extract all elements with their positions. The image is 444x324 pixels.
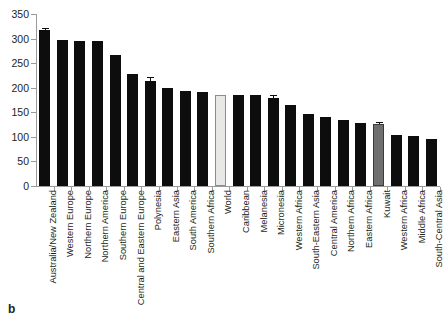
x-axis-category-label-holder: Central and Eastern Europe xyxy=(137,190,146,305)
bar xyxy=(127,74,138,186)
x-axis-category-label-holder: Western Africa xyxy=(295,190,304,250)
bar xyxy=(233,95,244,186)
x-axis-category-label: South-Eastern Asia xyxy=(312,190,321,270)
x-axis-category-label: Melanesia xyxy=(260,190,269,232)
bar xyxy=(92,41,103,186)
bar xyxy=(268,98,279,186)
bar xyxy=(215,95,226,186)
x-axis-category-labels: Australia/New ZealandWestern EuropeNorth… xyxy=(0,190,444,300)
x-axis-category-label-holder: Kuwait xyxy=(383,190,392,218)
x-axis-category-label-holder: World xyxy=(224,190,233,214)
x-axis-category-label: Southern Africa xyxy=(207,190,216,254)
x-axis-category-label-holder: Central America xyxy=(330,190,339,256)
x-axis-category-label-holder: Polynesia xyxy=(154,190,163,230)
bar xyxy=(426,139,437,186)
x-axis-category-label: South-Central Asia xyxy=(435,190,444,268)
x-axis-category-label: Eastern Asia xyxy=(172,190,181,242)
x-axis-category-label-holder: Australia/New Zealand xyxy=(49,190,58,284)
x-axis-category-label-holder: Middle Africa xyxy=(418,190,427,243)
chart-plot-area: 050100150200250300350 Australia/New Zeal… xyxy=(0,0,444,300)
x-axis-category-label: Caribbean xyxy=(242,190,251,233)
bar-series xyxy=(0,0,444,200)
x-axis-category-label: Western Europe xyxy=(66,190,75,257)
x-axis-category-label: Middle Africa xyxy=(418,190,427,243)
bar xyxy=(250,95,261,186)
figure-panel-b: 050100150200250300350 Australia/New Zeal… xyxy=(0,0,444,324)
bar xyxy=(320,117,331,186)
panel-letter: b xyxy=(8,302,15,316)
x-axis-category-label-holder: Eastern Asia xyxy=(172,190,181,242)
bar xyxy=(355,123,366,186)
x-axis-category-label: South America xyxy=(189,190,198,250)
bar xyxy=(39,30,50,186)
x-axis-category-label-holder: South-Central Asia xyxy=(435,190,444,268)
x-axis-category-label: Polynesia xyxy=(154,190,163,230)
x-axis-category-label: World xyxy=(224,190,233,214)
x-axis-category-label-holder: Northern America xyxy=(101,190,110,262)
x-axis-category-label: Western Africa xyxy=(295,190,304,250)
x-axis-category-label: Australia/New Zealand xyxy=(49,190,58,284)
x-axis-category-label-holder: Southern Europe xyxy=(119,190,128,260)
error-bar-cap xyxy=(376,122,383,123)
bar xyxy=(180,91,191,186)
x-axis-category-label-holder: Caribbean xyxy=(242,190,251,233)
x-axis-category-label: Central America xyxy=(330,190,339,256)
bar xyxy=(408,136,419,186)
x-axis-category-label: Northern Africa xyxy=(347,190,356,252)
x-axis-category-label-holder: South America xyxy=(189,190,198,250)
bar xyxy=(74,41,85,186)
bar xyxy=(338,120,349,186)
x-axis-category-label: Northern Europe xyxy=(84,190,93,259)
x-axis-category-label-holder: South-Eastern Asia xyxy=(312,190,321,270)
bar xyxy=(373,124,384,186)
error-bar-cap xyxy=(147,77,154,78)
x-axis-category-label-holder: Eastern Africa xyxy=(365,190,374,248)
bar xyxy=(285,105,296,186)
bar xyxy=(391,135,402,186)
x-axis-category-label-holder: Northern Africa xyxy=(347,190,356,252)
error-bar-cap xyxy=(42,28,49,29)
x-axis-category-label: Eastern Africa xyxy=(365,190,374,248)
x-axis-category-label-holder: Northern Europe xyxy=(84,190,93,259)
x-axis-category-label: Kuwait xyxy=(383,190,392,218)
x-axis-category-label: Micronesia xyxy=(277,190,286,235)
bar xyxy=(110,55,121,186)
bar xyxy=(162,88,173,186)
x-axis-category-label-holder: Western Europe xyxy=(66,190,75,257)
x-axis-category-label: Western Africa xyxy=(400,190,409,250)
bar xyxy=(145,81,156,186)
bar xyxy=(303,114,314,186)
bar xyxy=(57,40,68,186)
x-axis-category-label-holder: Western Africa xyxy=(400,190,409,250)
x-axis-category-label: Central and Eastern Europe xyxy=(137,190,146,305)
x-axis-category-label: Southern Europe xyxy=(119,190,128,260)
x-axis-category-label: Northern America xyxy=(101,190,110,262)
x-axis-category-label-holder: Melanesia xyxy=(260,190,269,232)
x-axis-category-label-holder: Micronesia xyxy=(277,190,286,235)
error-bar-cap xyxy=(270,95,277,96)
x-axis-category-label-holder: Southern Africa xyxy=(207,190,216,254)
bar xyxy=(197,92,208,186)
